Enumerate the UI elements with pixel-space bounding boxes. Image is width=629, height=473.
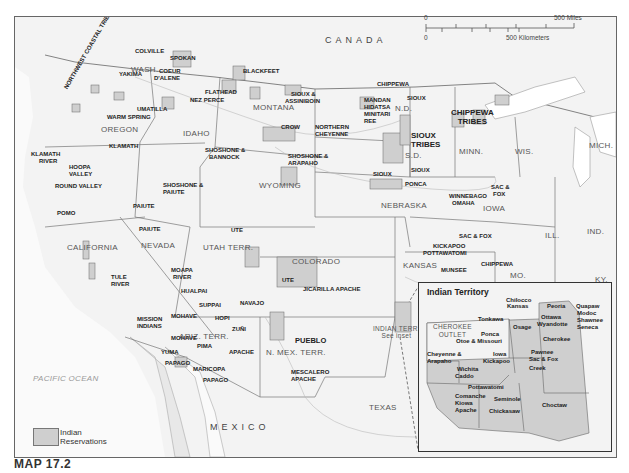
state-idaho: IDAHO (183, 129, 210, 138)
scale-miles: 500 Miles (554, 14, 582, 21)
state-nd: N.D. (395, 104, 412, 113)
state-nmex: N. MEX. TERR. (266, 348, 326, 357)
state-mich: MICH. (589, 141, 613, 150)
inset-ottawa: Ottawa (541, 314, 561, 321)
res-chippewa-nd: CHIPPEWA (377, 81, 409, 88)
res-hoopa1: HOOPA (69, 164, 91, 171)
res-maricopa: MARICOPA (193, 366, 225, 373)
res-sioux-tribes: SIOUX TRIBES (411, 131, 440, 149)
res-pima: PIMA (197, 343, 212, 350)
legend-swatch (33, 428, 59, 446)
state-oregon: OREGON (101, 125, 138, 134)
res-pomo: POMO (57, 210, 75, 217)
res-spokan: SPOKAN (170, 55, 196, 62)
res-shoshone-paiute2: PAIUTE (163, 189, 185, 196)
res-colville: COLVILLE (135, 48, 164, 55)
state-colorado: COLORADO (292, 257, 340, 266)
sioux-tribes-line1: SIOUX (411, 131, 440, 140)
res-nez-perce: NEZ PERCE (190, 97, 224, 104)
state-texas: TEXAS (369, 403, 397, 412)
res-mescalero2: APACHE (291, 376, 316, 383)
inset-tonkawa: Tonkawa (478, 316, 503, 323)
res-tule2: RIVER (111, 281, 129, 288)
sioux-tribes-line2: TRIBES (411, 140, 440, 149)
inset-title: Indian Territory (427, 289, 489, 296)
inset-choctaw: Choctaw (542, 402, 567, 409)
res-pueblo: PUEBLO (295, 337, 326, 344)
inset-pawnee: Pawnee (531, 349, 553, 356)
inset-wyandotte: Wyandotte (537, 321, 568, 328)
res-sioux-ne2: SIOUX (411, 167, 430, 174)
inset-sac-fox: Sac & Fox (529, 356, 558, 363)
res-suppai: SUPPAI (199, 302, 221, 309)
res-klamath-river1: KLAMATH (31, 151, 60, 158)
state-sd: S.D. (405, 151, 422, 160)
inset-seminole: Seminole (494, 396, 521, 403)
inset-apache: Apache (455, 407, 477, 414)
res-paiute2: PAIUTE (139, 226, 161, 233)
scale-km: 500 Kilometers (506, 34, 549, 41)
res-mission1: MISSION (137, 316, 162, 323)
label-canada: CANADA (325, 35, 387, 45)
res-mandan2: HIDATSA (364, 104, 390, 111)
inset-shawnee: Shawnee (577, 317, 603, 324)
res-moapa2: RIVER (173, 274, 191, 281)
res-umatilla: UMATILLA (137, 106, 167, 113)
inset-quapaw: Quapaw (576, 303, 599, 310)
scale-bar: 0 500 Miles 0 500 Kilometers (424, 14, 584, 54)
cherokee-outlet-line1: CHEROKEE (433, 323, 472, 331)
res-mandan1: MANDAN (364, 97, 391, 104)
res-hoopa2: VALLEY (69, 171, 92, 178)
res-mohave1: MOHAVE (171, 313, 197, 320)
inset-seneca: Seneca (577, 324, 598, 331)
state-wyoming: WYOMING (259, 181, 301, 190)
res-sioux-assiniboin1: SIOUX & (291, 91, 316, 98)
legend-line2: Reservations (60, 437, 107, 446)
res-round-valley: ROUND VALLEY (55, 183, 102, 190)
res-omaha: OMAHA (452, 200, 475, 207)
res-paiute1: PAIUTE (133, 203, 155, 210)
res-papago1: PAPAGO (165, 360, 190, 367)
legend-text: Indian Reservations (60, 428, 107, 446)
res-yuma: YUMA (161, 349, 179, 356)
inset-modoc: Modoc (577, 310, 596, 317)
res-n-cheyenne2: CHEYENNE (315, 131, 348, 138)
res-ute2: UTE (282, 277, 294, 284)
res-mandan4: REE (364, 118, 376, 125)
res-apache: APACHE (229, 349, 254, 356)
state-minn: MINN. (459, 147, 483, 156)
res-sac-fox-ia2: FOX (493, 191, 505, 198)
inset-creek: Creek (529, 365, 546, 372)
inset-ponca: Ponca (481, 331, 499, 338)
inset-wichita: Wichita (457, 366, 478, 373)
res-moapa1: MOAPA (171, 267, 193, 274)
state-california: CALIFORNIA (67, 243, 118, 252)
chippewa-tribes-line2: TRIBES (451, 117, 494, 126)
res-pottawatomi: POTTAWATOMI (423, 250, 467, 257)
res-sac-fox-ks: SAC & FOX (459, 233, 492, 240)
scale-zero-bottom: 0 (424, 34, 428, 41)
legend-line1: Indian (60, 428, 107, 437)
indian-terr-label: INDIAN TERR. (373, 325, 420, 332)
res-hualpai: HUALPAI (181, 288, 207, 295)
state-mo: MO. (510, 271, 526, 280)
res-mandan3: MINITARI (364, 111, 390, 118)
inset-cherokee: Cherokee (543, 336, 570, 343)
res-winnebago: WINNEBAGO (449, 193, 487, 200)
res-shoshone-bannock2: BANNOCK (209, 154, 240, 161)
indian-territory-inset: Indian Territory Chilocco Kansas Peoria … (418, 282, 612, 452)
state-iowa: IOWA (483, 204, 505, 213)
res-flathead: FLATHEAD (205, 89, 237, 96)
res-n-cheyenne1: NORTHERN (315, 124, 349, 131)
inset-cheyenne2: Arapaho (427, 358, 451, 365)
res-crow: CROW (281, 124, 300, 131)
scale-zero-top: 0 (424, 14, 428, 21)
inset-kiowa: Kiowa (455, 400, 473, 407)
res-shoshone-bannock1: SHOSHONE & (205, 147, 245, 154)
state-nevada: NEVADA (141, 241, 175, 250)
inset-peoria: Peoria (547, 303, 565, 310)
inset-otoe: Otoe & Missouri (456, 338, 502, 345)
res-kickapoo: KICKAPOO (433, 243, 465, 250)
res-shoshone-arapaho2: ARAPAHO (288, 160, 318, 167)
inset-comanche: Comanche (455, 393, 486, 400)
